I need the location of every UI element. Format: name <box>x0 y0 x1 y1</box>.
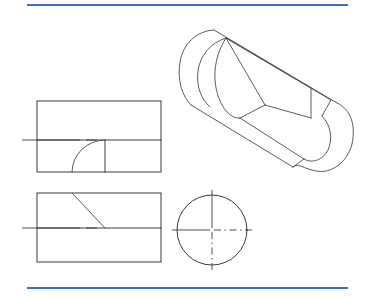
iso-slot-floor-far-edge <box>265 105 311 118</box>
top-view-outline <box>37 101 161 172</box>
iso-slot-floor-near-edge <box>240 118 304 159</box>
figure-page: Orthographic and isometric drawing of a … <box>0 0 367 297</box>
iso-ramp-runout-arc <box>215 38 240 118</box>
iso-slot-mouth-near-vertical <box>322 100 331 116</box>
front-view-ramp-edge <box>72 193 105 228</box>
side-view <box>172 190 252 270</box>
iso-near-endcap-outer <box>179 30 214 105</box>
isometric-view <box>179 30 353 171</box>
iso-slot-floor-ramp-base-edge <box>240 105 265 118</box>
iso-barrel-bottom-silhouette <box>191 105 293 167</box>
iso-far-endcap-inner <box>304 116 331 161</box>
top-view-runout-arc <box>72 140 105 172</box>
iso-ramp-face-edge <box>226 38 265 105</box>
iso-slot-far-wall-top-edge <box>226 38 311 88</box>
iso-near-endcap-inner <box>198 38 226 107</box>
iso-barrel-top-silhouette <box>214 30 337 103</box>
technical-drawing-canvas <box>0 0 367 297</box>
top-view <box>22 101 161 172</box>
front-view <box>22 193 161 262</box>
